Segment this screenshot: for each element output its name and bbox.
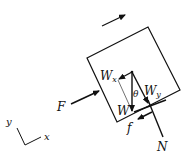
angle-theta-label: θ [133,89,139,99]
friction-label: f [126,121,134,135]
friction-arrow [138,112,152,119]
diagram-svg: F Wx Wy W θ N f y x [0,0,187,164]
weight-x-arrow [119,72,132,79]
motion-direction-arrow [102,15,125,26]
applied-force-arrow [71,91,99,104]
free-body-diagram: F Wx Wy W θ N f y x [0,0,187,164]
force-f-label: F [56,100,66,114]
force-origin-point [131,71,134,74]
normal-force-label: N [156,140,168,154]
weight-y-label: Wy [144,84,161,99]
weight-x-label: Wx [100,69,117,84]
weight-label: W [117,104,131,118]
axis-x-label: x [44,131,50,142]
normal-force-line [148,100,163,137]
axis-y-label: y [5,116,12,127]
axes [17,128,41,145]
